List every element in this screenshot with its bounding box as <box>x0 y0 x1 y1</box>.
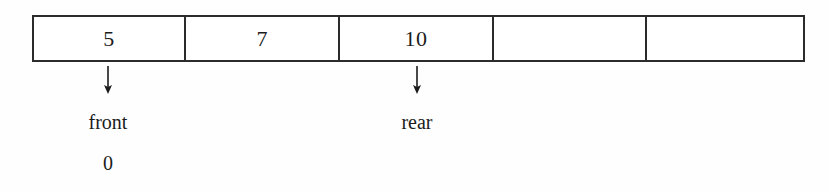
array-container: 5 7 10 <box>32 15 805 62</box>
pointer-rear: rear <box>357 66 477 153</box>
queue-array-figure: 5 7 10 front 0 <box>0 0 831 193</box>
array-cell-value: 10 <box>405 28 428 50</box>
array-cell-0: 5 <box>34 17 186 60</box>
array-cell-value: 7 <box>257 28 269 50</box>
pointer-front: front 0 <box>48 66 168 173</box>
down-arrow-icon <box>357 66 477 96</box>
array-cell-1: 7 <box>186 17 340 60</box>
pointer-label: front <box>48 112 168 132</box>
array-cell-value: 5 <box>103 28 115 50</box>
down-arrow-icon <box>48 66 168 96</box>
pointer-label: rear <box>357 112 477 132</box>
array-cell-4 <box>647 17 803 60</box>
pointer-index: 0 <box>48 153 168 173</box>
array-cell-2: 10 <box>340 17 493 60</box>
array-cell-3 <box>494 17 647 60</box>
